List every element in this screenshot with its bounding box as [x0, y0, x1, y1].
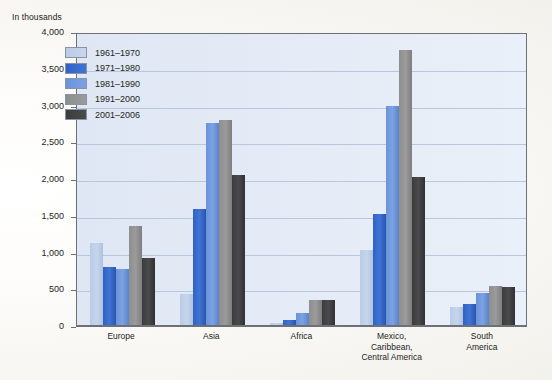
- y-axis-tick-label: 3,000: [0, 101, 64, 111]
- bar: [309, 300, 322, 326]
- legend-item: 1991–2000: [65, 92, 140, 108]
- legend-label: 1971–1980: [95, 63, 140, 73]
- y-axis-tick-mark: [71, 327, 76, 328]
- x-axis-label: Africa: [256, 331, 346, 342]
- legend-label: 1981–1990: [95, 79, 140, 89]
- y-axis-tick-label: 2,500: [0, 137, 64, 147]
- y-axis-tick-mark: [71, 180, 76, 181]
- legend-label: 2001–2006: [95, 110, 140, 120]
- bar-group: [180, 34, 245, 326]
- bar: [360, 250, 373, 326]
- bar: [116, 269, 129, 326]
- legend-label: 1961–1970: [95, 48, 140, 58]
- legend-swatch: [65, 94, 87, 105]
- bar: [232, 175, 245, 326]
- bar: [502, 287, 515, 326]
- bar: [489, 286, 502, 326]
- y-axis-tick-label: 500: [0, 284, 64, 294]
- bar: [193, 209, 206, 326]
- bar-group: [270, 34, 335, 326]
- bar: [476, 293, 489, 326]
- bar: [463, 304, 476, 326]
- bar: [103, 267, 116, 326]
- x-axis-label: Europe: [76, 331, 166, 342]
- bar: [206, 123, 219, 326]
- bar: [412, 177, 425, 326]
- bar: [322, 300, 335, 326]
- y-axis-tick-label: 1,500: [0, 211, 64, 221]
- y-axis-tick-mark: [71, 217, 76, 218]
- bar: [386, 106, 399, 327]
- bar: [129, 226, 142, 326]
- y-axis-tick-label: 3,500: [0, 64, 64, 74]
- bar-group: [450, 34, 515, 326]
- y-axis-tick-label: 0: [0, 321, 64, 331]
- y-axis-tick-mark: [71, 33, 76, 34]
- bar: [399, 50, 412, 326]
- legend-label: 1991–2000: [95, 94, 140, 104]
- legend-item: 1981–1990: [65, 76, 140, 92]
- y-axis-tick-label: 4,000: [0, 27, 64, 37]
- x-axis-line: [77, 325, 526, 326]
- legend-item: 1961–1970: [65, 45, 140, 61]
- bar: [180, 294, 193, 326]
- y-axis-tick-mark: [71, 143, 76, 144]
- bar: [142, 258, 155, 326]
- plot-area: [76, 33, 527, 327]
- legend-item: 1971–1980: [65, 61, 140, 77]
- y-axis-tick-mark: [71, 254, 76, 255]
- y-axis-tick-mark: [71, 290, 76, 291]
- bar-group: [360, 34, 425, 326]
- bar: [450, 307, 463, 326]
- bar-chart: In thousands 4,0003,5003,0002,5002,0001,…: [0, 0, 552, 380]
- x-axis-label: South America: [437, 331, 527, 352]
- legend-swatch: [65, 109, 87, 120]
- bar: [219, 120, 232, 326]
- legend-item: 2001–2006: [65, 107, 140, 123]
- legend-swatch: [65, 63, 87, 74]
- bar: [373, 214, 386, 326]
- y-axis-tick-label: 2,000: [0, 174, 64, 184]
- legend-swatch: [65, 47, 87, 58]
- legend: 1961–19701971–19801981–19901991–20002001…: [65, 45, 140, 123]
- legend-swatch: [65, 78, 87, 89]
- bar: [90, 243, 103, 326]
- y-axis-title: In thousands: [12, 12, 62, 22]
- bar-groups: [77, 34, 526, 326]
- y-axis-tick-label: 1,000: [0, 248, 64, 258]
- x-axis-label: Asia: [166, 331, 256, 342]
- x-axis-label: Mexico, Caribbean, Central America: [347, 331, 437, 363]
